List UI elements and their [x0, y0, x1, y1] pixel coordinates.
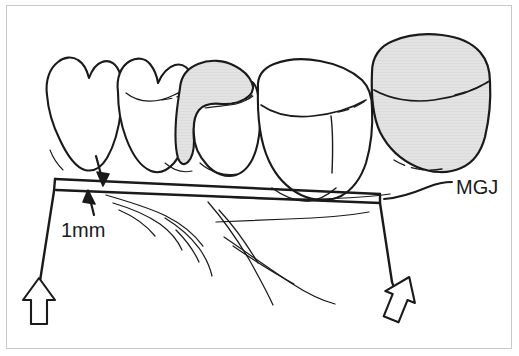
- tooth-molar-crown-shaded: [372, 34, 490, 172]
- arrow-marker-left: [23, 278, 55, 324]
- arrow-marker-right: [376, 271, 423, 326]
- tooth-premolar-first: [47, 58, 123, 171]
- arrow-measure-up: [83, 190, 95, 215]
- mgj-label: MGJ: [456, 176, 498, 198]
- tooth-molar-shaded-crown: [175, 61, 260, 176]
- measurement-label: 1mm: [61, 219, 105, 241]
- mgj-leader-line: [384, 182, 452, 199]
- illustration-canvas: 1mm MGJ: [0, 0, 519, 356]
- tooth-molar-large: [258, 59, 372, 201]
- mucosa-tissue-lines: [106, 194, 390, 305]
- dental-illustration-figure: 1mm MGJ: [0, 0, 519, 356]
